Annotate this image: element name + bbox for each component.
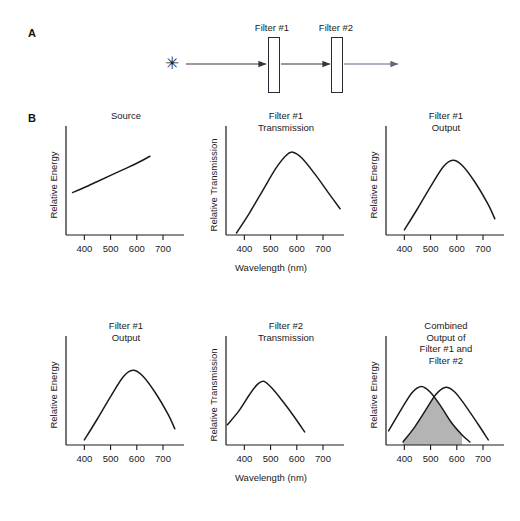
x-tick-label: 500 [263,453,279,464]
x-tick-label: 500 [423,243,439,254]
x-tick-label: 400 [76,243,92,254]
chart-canvas: 400500600700 [196,108,346,273]
x-tick-label: 600 [289,453,305,464]
x-tick-label: 600 [129,243,145,254]
chart-canvas: 400500600700 [356,108,506,273]
light-source-icon: ✳ [165,53,179,73]
chart-canvas: 400500600700 [196,318,346,483]
x-tick-label: 500 [103,453,119,464]
chart-filter2-transmission: Filter #2Transmission Relative Transmiss… [196,318,346,483]
figure-root: A Filter #1 Filter #2 ✳ B Source Relativ [0,0,520,521]
filter1-element [268,37,280,93]
x-tick-label: 400 [236,453,252,464]
optical-path-schematic: Filter #1 Filter #2 ✳ [0,0,520,100]
chart-filter1-output-bottom: Filter #1Output Relative Energy 40050060… [36,318,186,483]
data-curve-1 [227,381,304,432]
x-tick-label: 400 [396,453,412,464]
data-curve-1 [73,156,150,192]
chart-combined-output: CombinedOutput ofFilter #1 andFilter #2 … [356,318,506,483]
x-tick-label: 400 [76,453,92,464]
x-tick-label: 700 [155,453,171,464]
x-tick-label: 600 [129,453,145,464]
x-tick-label: 400 [236,243,252,254]
chart-canvas: 400500600700 [356,318,506,483]
chart-source: Source Relative Energy 400500600700 [36,108,186,273]
x-axis-label-top-row: Wavelength (nm) [196,262,346,273]
data-curve-1 [236,152,340,233]
chart-canvas: 400500600700 [36,108,186,273]
filter2-element [331,37,343,93]
x-tick-label: 700 [475,243,491,254]
x-tick-label: 500 [103,243,119,254]
x-tick-label: 700 [315,243,331,254]
x-tick-label: 600 [449,243,465,254]
x-tick-label: 700 [155,243,171,254]
schematic-beam-diagram: ✳ [0,0,520,100]
chart-filter1-output-top: Filter #1Output Relative Energy 40050060… [356,108,506,273]
x-tick-label: 400 [396,243,412,254]
chart-filter1-transmission: Filter #1Transmission Relative Transmiss… [196,108,346,273]
chart-canvas: 400500600700 [36,318,186,483]
x-tick-label: 500 [423,453,439,464]
data-curve-1 [404,160,494,230]
overlap-shaded-region [403,398,462,445]
x-tick-label: 600 [289,243,305,254]
x-tick-label: 500 [263,243,279,254]
x-tick-label: 600 [449,453,465,464]
x-axis-label-bottom-row: Wavelength (nm) [196,472,346,483]
panel-b-letter: B [28,112,36,124]
data-curve-1 [84,370,174,440]
x-tick-label: 700 [475,453,491,464]
x-tick-label: 700 [315,453,331,464]
